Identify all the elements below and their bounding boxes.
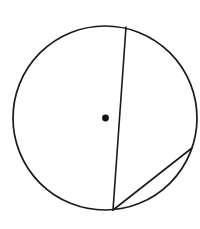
lower-right-chord (113, 148, 192, 210)
near-diameter-chord (113, 27, 126, 210)
geometry-figure (0, 0, 200, 229)
figure-canvas (0, 0, 200, 229)
center-point-dot (102, 115, 109, 122)
